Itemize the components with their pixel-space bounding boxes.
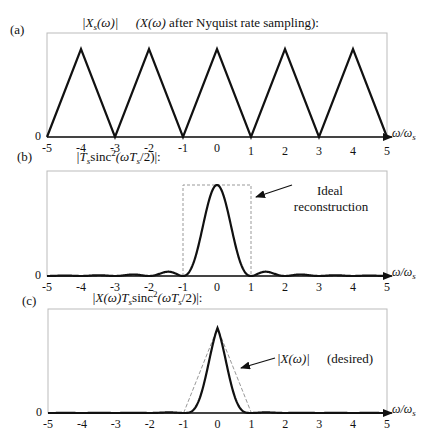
x-tick-label: 2 <box>282 280 288 294</box>
x-tick-label: 4 <box>350 417 356 431</box>
panel-c: (c) |X(ω)Tssinc2(ωTs/2)|: -5-4-3-2-10123… <box>22 289 416 431</box>
panel-b-x-axis-label: ω/ωs <box>392 265 416 281</box>
ideal-reconstruction-label-line1: Ideal <box>317 183 343 198</box>
x-tick-label: 0 <box>214 141 220 155</box>
x-tick-label: 4 <box>350 280 356 294</box>
panel-c-x-ticks: -5-4-3-2-1012345 <box>43 417 390 431</box>
panel-b-label: (b) <box>17 149 32 164</box>
ideal-reconstruction-arrow <box>256 185 292 197</box>
panel-a-spectrum-curve <box>47 49 387 137</box>
panel-a-label: (a) <box>10 22 24 37</box>
panel-a-title: |Xs(ω)| (X(ω) after Nyquist rate samplin… <box>82 15 319 32</box>
x-tick-label: 3 <box>316 417 322 431</box>
x-tick-label: -1 <box>178 141 188 155</box>
x-tick-label: -1 <box>179 417 189 431</box>
desired-note: (desired) <box>327 351 373 366</box>
x-tick-label: 2 <box>282 417 288 431</box>
x-tick-label: 1 <box>248 144 254 158</box>
x-tick-label: -4 <box>76 280 86 294</box>
x-tick-label: 5 <box>384 417 390 431</box>
ideal-reconstruction-label-line2: reconstruction <box>294 199 369 214</box>
panel-c-title: |X(ω)Tssinc2(ωTs/2)|: <box>92 289 202 307</box>
panel-b-y-zero: 0 <box>35 268 41 282</box>
x-tick-label: 5 <box>384 144 390 158</box>
panel-c-product-curve <box>48 328 387 413</box>
panel-b: (b) |Tssinc2(ωTs/2)|: -5-4-3-2-1012345 0… <box>17 148 416 294</box>
panel-c-label: (c) <box>22 293 36 308</box>
panel-c-y-zero: 0 <box>36 405 42 419</box>
figure: (a) |Xs(ω)| (X(ω) after Nyquist rate sam… <box>0 0 436 443</box>
x-tick-label: 0 <box>215 417 221 431</box>
x-tick-label: 2 <box>282 144 288 158</box>
x-tick-label: 1 <box>248 280 254 294</box>
desired-label: |X(ω)| <box>277 351 310 366</box>
x-tick-label: -5 <box>42 280 52 294</box>
panel-a-x-axis-label: ω/ωs <box>392 126 416 142</box>
x-tick-label: 3 <box>316 144 322 158</box>
x-tick-label: -5 <box>43 417 53 431</box>
x-tick-label: -2 <box>145 417 155 431</box>
panel-c-x-axis-label: ω/ωs <box>392 402 416 418</box>
x-tick-label: -3 <box>111 417 121 431</box>
desired-arrow <box>241 358 275 368</box>
x-tick-label: 5 <box>384 280 390 294</box>
x-tick-label: 1 <box>248 417 254 431</box>
desired-spectrum-dashed <box>184 328 252 413</box>
panel-a-y-zero: 0 <box>35 129 41 143</box>
x-tick-label: -5 <box>42 141 52 155</box>
x-tick-label: 4 <box>350 144 356 158</box>
x-tick-label: -4 <box>77 417 87 431</box>
panel-b-title: |Tssinc2(ωTs/2)|: <box>76 148 161 166</box>
x-tick-label: 0 <box>214 280 220 294</box>
panel-a: (a) |Xs(ω)| (X(ω) after Nyquist rate sam… <box>10 15 416 158</box>
x-tick-label: 3 <box>316 280 322 294</box>
